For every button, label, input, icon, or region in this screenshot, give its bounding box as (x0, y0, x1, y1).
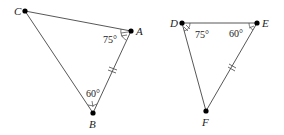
point-c (22, 8, 27, 13)
label-b: B (89, 118, 96, 130)
label-a: A (135, 25, 143, 37)
side-bc (25, 11, 93, 113)
triangle-def: D E F 75° 60° (169, 17, 269, 128)
triangle-abc: C A B 75° 60° (14, 5, 143, 130)
point-f (203, 108, 208, 113)
side-ca (25, 11, 131, 31)
diagram-canvas: C A B 75° 60° D E F 75° 60° (0, 0, 284, 135)
angle-arc-d (184, 23, 190, 31)
point-b (90, 110, 95, 115)
angle-label-d: 75° (195, 29, 209, 40)
label-d: D (169, 17, 178, 29)
angle-label-e: 60° (229, 28, 243, 39)
angle-label-b: 60° (86, 88, 100, 99)
congruent-triangles-diagram: C A B 75° 60° D E F 75° 60° (0, 0, 284, 135)
point-e (254, 20, 259, 25)
point-d (179, 20, 184, 25)
angle-arc-b (88, 101, 97, 107)
label-e: E (261, 17, 269, 29)
double-tick-ef (228, 64, 236, 71)
angle-label-a: 75° (103, 34, 117, 45)
label-c: C (14, 5, 22, 17)
label-f: F (201, 116, 209, 128)
point-a (128, 28, 133, 33)
